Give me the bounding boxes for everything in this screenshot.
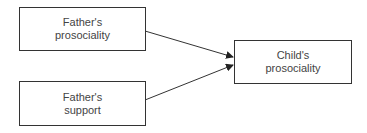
arrow-father-prosociality-to-child — [145, 31, 233, 57]
node-label-line1: Father's — [63, 16, 102, 29]
node-label-line1: Child's — [277, 49, 310, 62]
node-father-prosociality: Father's prosociality — [19, 7, 146, 51]
node-child-prosociality: Child's prosociality — [234, 40, 352, 84]
arrow-father-support-to-child — [145, 65, 233, 100]
node-father-support: Father's support — [19, 81, 146, 126]
node-label-line1: Father's — [63, 91, 102, 104]
node-label-line2: support — [64, 104, 101, 117]
node-label-line2: prosociality — [55, 29, 110, 42]
node-label-line2: prosociality — [265, 62, 320, 75]
